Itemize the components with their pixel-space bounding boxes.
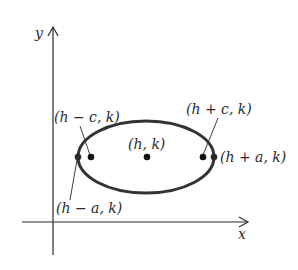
left-vertex-point	[75, 154, 82, 161]
center-point	[144, 154, 151, 161]
ellipse-diagram: y x (h − c, k) (h, k) (h + c, k) (h + a,…	[0, 0, 298, 270]
left-focus-leader	[80, 126, 90, 155]
left-vertex-leader	[70, 160, 77, 200]
left-focus-label: (h − c, k)	[54, 109, 120, 125]
center-label: (h, k)	[128, 136, 165, 152]
y-axis: y	[34, 25, 58, 255]
right-vertex-point	[211, 154, 218, 161]
y-axis-label: y	[34, 25, 44, 41]
x-axis-label: x	[238, 226, 246, 242]
right-vertex-label: (h + a, k)	[220, 149, 286, 165]
right-focus-point	[200, 154, 207, 161]
right-focus-leader	[203, 118, 218, 155]
left-focus-point	[88, 154, 95, 161]
left-vertex-label: (h − a, k)	[56, 200, 122, 216]
right-focus-label: (h + c, k)	[186, 101, 252, 117]
x-axis: x	[22, 217, 248, 242]
